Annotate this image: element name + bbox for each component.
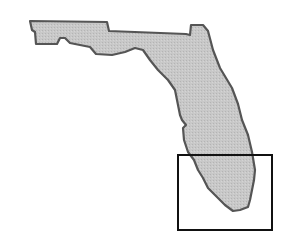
florida-locator-map	[0, 0, 293, 247]
